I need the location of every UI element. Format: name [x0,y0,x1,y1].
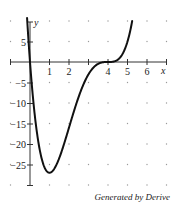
x-tick-labels: 1 2 4 5 6 [47,66,150,77]
y-tick-5: 5 [21,37,26,48]
y-tick-neg10: −10 [10,98,26,109]
x-tick-1: 1 [47,66,52,77]
y-tick-neg15: −15 [10,119,26,130]
x-tick-2: 2 [67,66,72,77]
y-axis-label: y [33,17,39,28]
y-tick-labels: 5 −5 −10 −15 −20 −25 [10,37,26,171]
function-curve [27,18,132,173]
x-axis-label: x [160,65,166,76]
y-tick-neg20: −20 [10,139,26,150]
caption: Generated by Derive [95,192,170,202]
x-tick-6: 6 [145,66,150,77]
function-plot: 1 2 4 5 6 5 −5 −10 −15 −20 −25 y x [0,0,179,206]
x-tick-4: 4 [106,66,111,77]
y-tick-neg5: −5 [15,78,26,89]
y-tick-neg25: −25 [10,160,26,171]
x-tick-5: 5 [125,66,130,77]
